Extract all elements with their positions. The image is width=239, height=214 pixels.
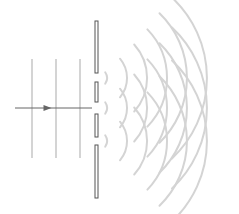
diffracted-wavefronts — [105, 0, 207, 214]
barrier-segment — [95, 145, 98, 198]
diffracted-wavefront-arc — [105, 72, 107, 83]
diagram-canvas — [0, 0, 239, 214]
diffraction-diagram — [0, 0, 239, 214]
diffracted-wavefront-arc — [134, 108, 147, 175]
diffracted-wavefront-arc — [147, 29, 167, 126]
arrowhead-icon — [44, 105, 52, 111]
barrier-segment — [95, 82, 98, 102]
barrier-segment — [95, 114, 98, 137]
diffracted-wavefront-arc — [105, 102, 107, 113]
diffracted-wavefront-arc — [172, 0, 207, 158]
diffracted-wavefront-arc — [105, 135, 107, 146]
diffracted-wavefront-arc — [147, 92, 167, 189]
diffracted-wavefront-arc — [147, 59, 167, 156]
barrier-segment — [95, 21, 98, 73]
grating-barrier — [95, 21, 98, 198]
